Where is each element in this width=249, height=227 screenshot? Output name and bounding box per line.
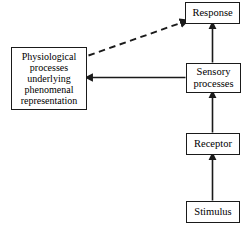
node-stimulus-label: Stimulus <box>187 206 239 218</box>
node-response-label: Response <box>186 7 239 19</box>
node-stimulus[interactable]: Stimulus <box>186 201 240 223</box>
node-sensory-processes[interactable]: Sensory processes <box>186 63 241 93</box>
node-physiological-processes-label: Physiological processes underlying pheno… <box>12 51 86 107</box>
node-response[interactable]: Response <box>185 2 240 24</box>
node-physiological-processes[interactable]: Physiological processes underlying pheno… <box>11 47 87 110</box>
diagram-canvas: Response Sensory processes Receptor Stim… <box>0 0 249 227</box>
node-receptor[interactable]: Receptor <box>186 133 240 155</box>
diagram-connectors-layer <box>0 0 249 227</box>
node-receptor-label: Receptor <box>187 138 239 150</box>
edge-physiological-to-response-dashed <box>89 23 183 56</box>
node-sensory-processes-label: Sensory processes <box>187 66 240 90</box>
